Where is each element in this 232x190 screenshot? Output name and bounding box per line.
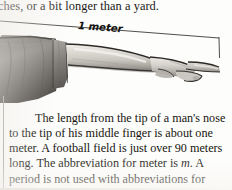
meter-abbreviation: m <box>181 156 190 170</box>
clipped-top-text-line: ches, or a bit longer than a yard. <box>0 0 232 14</box>
scan-bottom-edge <box>0 188 232 190</box>
arm-photograph <box>0 33 222 105</box>
body-paragraph: The length from the tip of a man's nose … <box>9 111 232 190</box>
scanned-page: ches, or a bit longer than a yard. <box>0 0 232 190</box>
scan-left-rule <box>3 96 4 190</box>
